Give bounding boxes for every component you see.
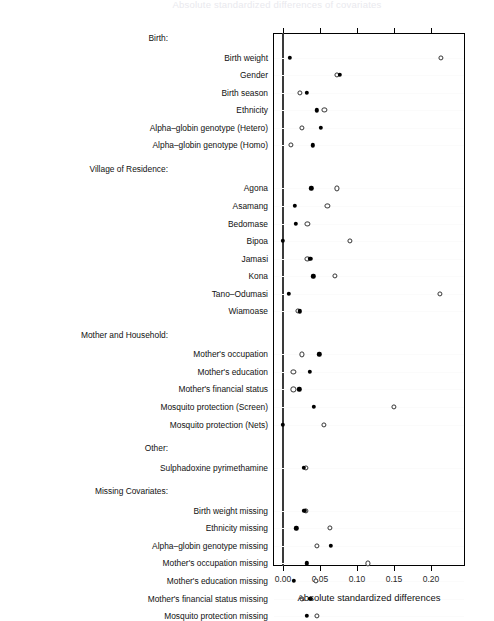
gridline: [274, 372, 464, 373]
row-label: Gender: [0, 70, 268, 80]
row-label: Alpha–globin genotype missing: [0, 541, 268, 551]
row-label: Sulphadoxine pyrimethamine: [0, 463, 268, 473]
tick-top-0.05: [320, 28, 321, 33]
gridline: [274, 110, 464, 111]
row-label: Alpha–globin genotype (Hetero): [0, 123, 268, 133]
tick-label-0.15: 0.15: [386, 574, 403, 584]
zero-reference-line: [282, 33, 284, 566]
group-label: Other:: [0, 443, 168, 453]
gridline: [274, 188, 464, 189]
row-label: Mother's occupation missing: [0, 558, 268, 568]
row-label: Bipoa: [0, 236, 268, 246]
row-label: Asamang: [0, 201, 268, 211]
row-label: Mosquito protection (Nets): [0, 420, 268, 430]
point-adjusted: [292, 579, 296, 583]
row-label: Tano–Odumasi: [0, 289, 268, 299]
row-label: Mother's financial status: [0, 384, 268, 394]
gridline: [274, 528, 464, 529]
row-label: Kona: [0, 271, 268, 281]
gridline: [274, 145, 464, 146]
tick-top-0.10: [357, 28, 358, 33]
row-label: Mosquito protection missing: [0, 611, 268, 621]
plot-frame: [273, 33, 465, 566]
chart-title: Absolute standardized differences of cov…: [0, 0, 494, 10]
row-label: Birth weight missing: [0, 506, 268, 516]
gridline: [274, 546, 464, 547]
tick-bottom-0.10: [357, 566, 358, 571]
x-axis-label: Absolute standardized differences: [273, 592, 465, 603]
row-label: Ethnicity: [0, 105, 268, 115]
point-unadjusted: [314, 613, 319, 618]
tick-label-0.00: 0.00: [275, 574, 292, 584]
row-label: Mother's financial status missing: [0, 594, 268, 604]
row-label: Mother's occupation: [0, 349, 268, 359]
row-label: Mother's education missing: [0, 576, 268, 586]
row-label: Bedomase: [0, 219, 268, 229]
gridline: [274, 93, 464, 94]
row-label: Birth season: [0, 88, 268, 98]
tick-top-0.20: [431, 28, 432, 33]
gridline: [274, 75, 464, 76]
tick-bottom-0.00: [283, 566, 284, 571]
row-label: Jamasi: [0, 254, 268, 264]
tick-top-0.15: [394, 28, 395, 33]
tick-label-0.10: 0.10: [349, 574, 366, 584]
row-label: Mother's education: [0, 367, 268, 377]
row-label: Alpha–globin genotype (Homo): [0, 140, 268, 150]
tick-bottom-0.15: [394, 566, 395, 571]
gridline: [274, 407, 464, 408]
gridline: [274, 58, 464, 59]
tick-top-0.00: [283, 28, 284, 33]
row-label: Agona: [0, 183, 268, 193]
group-label: Village of Residence:: [0, 164, 168, 174]
gridline: [274, 311, 464, 312]
group-label: Birth:: [0, 33, 168, 43]
gridline: [274, 294, 464, 295]
gridline: [274, 259, 464, 260]
point-adjusted: [304, 614, 308, 618]
gridline: [274, 224, 464, 225]
gridline: [274, 206, 464, 207]
row-label: Ethnicity missing: [0, 523, 268, 533]
group-label: Missing Covariates:: [0, 486, 168, 496]
row-label: Mosquito protection (Screen): [0, 402, 268, 412]
gridline: [274, 425, 464, 426]
tick-label-0.20: 0.20: [423, 574, 440, 584]
row-label: Birth weight: [0, 53, 268, 63]
row-label: Wiamoase: [0, 306, 268, 316]
tick-bottom-0.05: [320, 566, 321, 571]
group-label: Mother and Household:: [0, 330, 168, 340]
tick-bottom-0.20: [431, 566, 432, 571]
gridline: [274, 241, 464, 242]
gridline: [274, 276, 464, 277]
gridline: [274, 616, 464, 617]
gridline: [274, 389, 464, 390]
